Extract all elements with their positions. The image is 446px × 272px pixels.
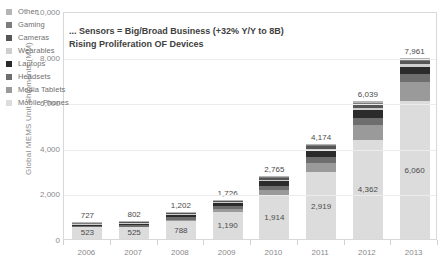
legend-item-label: Mobile Phones (18, 98, 69, 107)
legend-item-mobile-phones[interactable]: Mobile Phones (6, 96, 69, 109)
bar-stack (306, 144, 336, 239)
x-tick-mark (297, 240, 298, 245)
bar-total-label: 6,039 (343, 90, 393, 99)
bar-segment-laptops (166, 215, 196, 218)
legend-item-label: Gaming (18, 20, 45, 29)
legend-item-wearables[interactable]: Wearables (6, 44, 69, 57)
legend-item-label: Headsets (18, 72, 51, 81)
bar-segment-cameras (400, 61, 430, 64)
bar-segment-laptops (353, 110, 383, 118)
y-tick-label: 0 (56, 236, 60, 245)
bar-segment-headsets (72, 226, 102, 227)
bar-segment-headsets (306, 157, 336, 163)
legend-item-other[interactable]: Other (6, 5, 69, 18)
bar-segment-gaming (119, 221, 149, 222)
bar-segment-gaming (213, 200, 243, 201)
x-tick-mark (63, 240, 64, 245)
bar-segment-gaming (259, 177, 289, 178)
legend-item-label: Cameras (18, 33, 49, 42)
bar-segment-wearables (259, 180, 289, 181)
x-tick-label-2013: 2013 (405, 248, 423, 257)
bar-total-label: 727 (62, 211, 112, 220)
bar-segment-headsets (213, 206, 243, 209)
legend-swatch-icon (6, 100, 12, 106)
legend-item-laptops[interactable]: Laptops (6, 57, 69, 70)
bar-total-label: 4,174 (296, 133, 346, 142)
bar-segment-cameras (166, 213, 196, 214)
x-tick-label-2008: 2008 (171, 248, 189, 257)
bar-segment-gaming (72, 223, 102, 224)
bar-segment-wearables (400, 64, 430, 67)
bar-inner-label: 1,914 (259, 213, 289, 222)
bar-group-2013[interactable]: 7,9616,060 (400, 11, 430, 239)
legend-swatch-icon (6, 87, 12, 93)
bar-segment-media-tablets (166, 220, 196, 221)
bar-segment-headsets (166, 217, 196, 220)
bar-inner-label: 1,190 (213, 221, 243, 230)
legend-swatch-icon (6, 74, 12, 80)
x-tick-mark (344, 240, 345, 245)
legend: OtherGamingCamerasWearablesLaptopsHeadse… (6, 5, 69, 109)
legend-swatch-icon (6, 35, 12, 41)
legend-item-label: Laptops (18, 59, 45, 68)
bar-segment-cameras (213, 201, 243, 202)
bar-inner-label: 6,060 (400, 166, 430, 175)
bar-inner-label: 2,919 (306, 202, 336, 211)
gridline (64, 59, 436, 60)
x-tick-mark (110, 240, 111, 245)
legend-swatch-icon (6, 9, 12, 15)
bar-segment-gaming (166, 212, 196, 213)
headline-line-1: ... Sensors = Big/Broad Business (+32% Y… (69, 25, 369, 38)
x-tick-label-2012: 2012 (358, 248, 376, 257)
bar-segment-media-tablets (306, 163, 336, 173)
bar-segment-cameras (119, 222, 149, 223)
bar-segment-cameras (353, 105, 383, 108)
bar-stack (400, 58, 430, 240)
legend-item-label: Wearables (18, 46, 55, 55)
legend-swatch-icon (6, 61, 12, 67)
bar-total-label: 2,765 (249, 165, 299, 174)
bar-total-label: 802 (109, 210, 159, 219)
x-tick-label-2010: 2010 (264, 248, 282, 257)
bar-segment-gaming (306, 145, 336, 147)
bar-segment-media-tablets (213, 209, 243, 212)
mems-shipments-chart: Global MEMS Unit Shipments (MM) 02,0004,… (0, 0, 446, 272)
bar-segment-laptops (306, 150, 336, 157)
bar-segment-other (306, 144, 336, 145)
legend-item-gaming[interactable]: Gaming (6, 18, 69, 31)
legend-swatch-icon (6, 22, 12, 28)
bar-segment-cameras (72, 223, 102, 224)
bar-segment-headsets (259, 186, 289, 191)
bar-stack (353, 101, 383, 239)
legend-item-label: Media Tablets (18, 85, 65, 94)
bar-segment-media-tablets (353, 125, 383, 140)
bar-segment-laptops (213, 203, 243, 206)
bar-segment-wearables (213, 202, 243, 203)
legend-item-cameras[interactable]: Cameras (6, 31, 69, 44)
x-tick-label-2009: 2009 (218, 248, 236, 257)
bar-stack (213, 200, 243, 239)
bar-inner-label: 4,362 (353, 185, 383, 194)
x-tick-mark (157, 240, 158, 245)
y-tick-label: 2,000 (40, 190, 60, 199)
legend-item-media-tablets[interactable]: Media Tablets (6, 83, 69, 96)
bar-segment-other (259, 176, 289, 177)
bar-segment-other (353, 101, 383, 103)
x-tick-label-2007: 2007 (124, 248, 142, 257)
bar-stack (259, 176, 289, 239)
gridline (64, 104, 436, 105)
legend-swatch-icon (6, 48, 12, 54)
x-axis: 20062007200820092010201120122013 (63, 240, 437, 272)
bar-segment-wearables (166, 214, 196, 215)
bar-segment-cameras (306, 146, 336, 148)
bar-segment-headsets (119, 225, 149, 227)
legend-item-headsets[interactable]: Headsets (6, 70, 69, 83)
x-tick-mark (390, 240, 391, 245)
bar-total-label: 7,961 (390, 47, 440, 56)
headline-line-2: Rising Proliferation OF Devices (69, 38, 369, 51)
bar-segment-laptops (72, 224, 102, 226)
x-tick-mark (437, 240, 438, 245)
bar-inner-label: 525 (119, 228, 149, 237)
bar-segment-headsets (400, 74, 430, 82)
bar-inner-label: 523 (72, 228, 102, 237)
